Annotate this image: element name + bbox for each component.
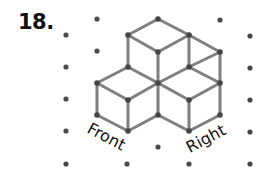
grid-dot: [63, 161, 68, 166]
cube-edge: [97, 67, 128, 83]
cube-edge: [158, 35, 189, 52]
grid-dot: [247, 129, 252, 134]
cube-edge: [97, 83, 128, 100]
cube-vertex: [125, 64, 131, 70]
cube-edge: [128, 115, 158, 131]
cube-vertex: [125, 32, 131, 38]
grid-dot: [63, 64, 68, 69]
cube-vertex: [155, 49, 161, 55]
cube-edge: [128, 67, 158, 83]
grid-dot: [186, 161, 191, 166]
grid-dot: [63, 32, 68, 37]
grid-dot: [217, 17, 222, 22]
cube-vertex: [186, 128, 192, 134]
cube-edge: [189, 35, 220, 52]
cube-edge: [128, 83, 158, 100]
grid-dot: [63, 96, 68, 101]
cube-vertex: [94, 80, 100, 86]
cube-edge: [158, 67, 189, 83]
cube-edge: [158, 115, 189, 131]
cube-vertex: [94, 112, 100, 118]
cube-edge: [189, 67, 220, 83]
grid-dot: [94, 48, 99, 53]
cube-edge: [158, 83, 189, 100]
cube-vertex: [186, 64, 192, 70]
cube-vertex: [125, 97, 131, 103]
grid-dot: [247, 65, 252, 70]
grid-dot: [247, 97, 252, 102]
cube-edge: [189, 52, 220, 67]
cube-vertex: [125, 128, 131, 134]
cube-vertex: [217, 80, 223, 86]
grid-dot: [94, 16, 99, 21]
cube-edge: [128, 35, 158, 52]
grid-dot: [63, 128, 68, 133]
grid-dot: [247, 161, 252, 166]
cube-edge: [128, 19, 158, 35]
isometric-drawing-exercise: 18. Front Right: [0, 0, 270, 196]
cube-vertex: [217, 49, 223, 55]
cube-vertex: [217, 112, 223, 118]
cube-edge: [189, 83, 220, 100]
problem-number: 18.: [18, 12, 54, 33]
cube-vertex: [155, 16, 161, 22]
cube-edge: [158, 19, 189, 35]
grid-dot: [124, 161, 129, 166]
cube-vertex: [155, 80, 161, 86]
cube-vertex: [186, 97, 192, 103]
cube-vertex: [155, 112, 161, 118]
grid-dot: [247, 33, 252, 38]
cube-vertex: [186, 32, 192, 38]
grid-dot: [155, 144, 160, 149]
